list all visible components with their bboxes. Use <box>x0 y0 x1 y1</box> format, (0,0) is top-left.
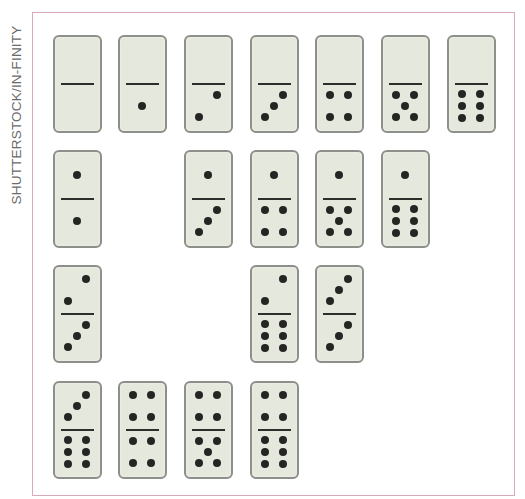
domino-half-top <box>317 37 362 83</box>
pip-dot <box>476 90 484 98</box>
pip-dot <box>279 91 287 99</box>
pip-dot <box>392 217 400 225</box>
pip-dot <box>261 460 269 468</box>
pip-dot <box>392 91 400 99</box>
domino-half-top <box>252 37 297 83</box>
domino-half-top <box>383 152 428 198</box>
domino-half-top <box>186 383 231 429</box>
pip-dot <box>410 217 418 225</box>
domino-divider <box>61 198 94 201</box>
domino-half-bottom <box>252 200 297 246</box>
pip-dot <box>204 171 212 179</box>
pip-dot <box>326 206 334 214</box>
pip-dot <box>279 413 287 421</box>
pip-dot <box>392 205 400 213</box>
domino-half-bottom <box>252 431 297 477</box>
domino-divider <box>323 198 356 201</box>
domino-divider <box>258 83 291 86</box>
domino-half-bottom <box>252 85 297 131</box>
domino-0-3 <box>250 35 299 133</box>
pip-dot <box>335 217 343 225</box>
domino-divider <box>258 313 291 316</box>
domino-half-top <box>317 267 362 313</box>
pip-dot <box>458 102 466 110</box>
pip-dot <box>279 436 287 444</box>
pip-dot <box>82 448 90 456</box>
domino-divider <box>126 83 159 86</box>
pip-dot <box>410 205 418 213</box>
pip-dot <box>344 275 352 283</box>
domino-divider <box>61 429 94 432</box>
domino-half-bottom <box>55 85 100 131</box>
pip-dot <box>401 171 409 179</box>
pip-dot <box>261 436 269 444</box>
pip-dot <box>401 102 409 110</box>
domino-divider <box>61 313 94 316</box>
pip-dot <box>129 413 137 421</box>
pip-dot <box>261 448 269 456</box>
pip-dot <box>410 91 418 99</box>
pip-dot <box>261 413 269 421</box>
pip-dot <box>279 332 287 340</box>
domino-half-bottom <box>55 200 100 246</box>
pip-dot <box>213 206 221 214</box>
pip-dot <box>129 437 137 445</box>
pip-dot <box>476 114 484 122</box>
domino-divider <box>389 198 422 201</box>
domino-half-bottom <box>186 85 231 131</box>
pip-dot <box>195 228 203 236</box>
domino-half-bottom <box>186 200 231 246</box>
pip-dot <box>326 113 334 121</box>
pip-dot <box>213 91 221 99</box>
pip-dot <box>279 228 287 236</box>
pip-dot <box>195 391 203 399</box>
domino-divider <box>192 83 225 86</box>
pip-dot <box>82 391 90 399</box>
pip-dot <box>64 343 72 351</box>
domino-divider <box>192 198 225 201</box>
domino-half-top <box>186 37 231 83</box>
pip-dot <box>410 229 418 237</box>
pip-dot <box>64 460 72 468</box>
pip-dot <box>476 102 484 110</box>
pip-dot <box>73 402 81 410</box>
domino-half-bottom <box>383 200 428 246</box>
domino-divider <box>389 83 422 86</box>
pip-dot <box>279 275 287 283</box>
domino-1-5 <box>315 150 364 248</box>
pip-dot <box>326 91 334 99</box>
domino-divider <box>192 429 225 432</box>
pip-dot <box>147 391 155 399</box>
pip-dot <box>64 436 72 444</box>
domino-half-top <box>120 383 165 429</box>
domino-0-6 <box>447 35 496 133</box>
domino-half-bottom <box>383 85 428 131</box>
pip-dot <box>279 460 287 468</box>
pip-dot <box>261 206 269 214</box>
domino-half-bottom <box>317 315 362 361</box>
photo-credit: SHUTTERSTOCK/IN-FINITY <box>9 26 24 205</box>
domino-half-bottom <box>317 200 362 246</box>
pip-dot <box>344 91 352 99</box>
pip-dot <box>261 113 269 121</box>
domino-half-top <box>383 37 428 83</box>
pip-dot <box>147 437 155 445</box>
domino-divider <box>258 429 291 432</box>
pip-dot <box>344 228 352 236</box>
pip-dot <box>213 437 221 445</box>
pip-dot <box>261 391 269 399</box>
pip-dot <box>270 171 278 179</box>
pip-dot <box>279 206 287 214</box>
pip-dot <box>213 459 221 467</box>
domino-half-bottom <box>186 431 231 477</box>
domino-0-4 <box>315 35 364 133</box>
pip-dot <box>326 343 334 351</box>
domino-4-5 <box>184 381 233 479</box>
domino-2-3 <box>53 265 102 363</box>
domino-0-5 <box>381 35 430 133</box>
pip-dot <box>261 297 269 305</box>
pip-dot <box>270 102 278 110</box>
pip-dot <box>213 413 221 421</box>
pip-dot <box>279 448 287 456</box>
domino-0-0 <box>53 35 102 133</box>
